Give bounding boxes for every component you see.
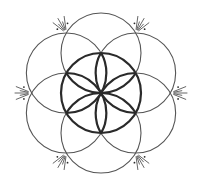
seed-of-life-illustration <box>0 0 200 188</box>
ray-group <box>15 86 28 100</box>
ray-line <box>139 23 149 31</box>
ray-dot <box>177 98 179 100</box>
ray-group <box>134 155 149 169</box>
ray-dot <box>134 22 136 24</box>
ray-line <box>139 155 149 163</box>
ray-group <box>53 16 68 30</box>
ray-group <box>134 16 149 30</box>
ray-dot <box>177 86 179 88</box>
ray-dot <box>56 28 58 30</box>
ray-dot <box>134 162 136 164</box>
ray-dot <box>23 86 25 88</box>
ray-dot <box>67 22 69 24</box>
ray-line <box>53 23 63 31</box>
ray-dot <box>23 98 25 100</box>
ray-group <box>53 155 68 169</box>
ray-line <box>53 155 63 163</box>
ray-dot <box>144 28 146 30</box>
ray-group <box>174 86 187 100</box>
ray-dot <box>67 162 69 164</box>
ray-dot <box>56 156 58 158</box>
ray-dot <box>144 156 146 158</box>
